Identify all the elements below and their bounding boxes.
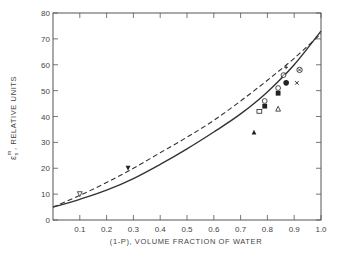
chart: 01020304050607080 0.10.20.30.40.50.60.70… <box>0 0 341 255</box>
x-tick-label: 0.6 <box>208 225 220 234</box>
x-tick-label: 0.4 <box>155 225 167 234</box>
x-tick-label: 0.9 <box>289 225 301 234</box>
marker-open-triangle <box>276 106 281 111</box>
x-axis-title: (1-P), VOLUME FRACTION OF WATER <box>110 237 262 246</box>
y-tick-label: 30 <box>41 138 50 147</box>
marker-open-circle <box>276 86 281 91</box>
svg-text:εsm, RELATIVE UNITS: εsm, RELATIVE UNITS <box>6 76 19 160</box>
marker-circled-x <box>297 67 302 72</box>
y-tick-label: 50 <box>41 87 50 96</box>
x-tick-label: 0.7 <box>235 225 247 234</box>
x-axis-ticks: 0.10.20.30.40.50.60.70.80.91.0 <box>74 13 327 234</box>
y-axis-sub: s <box>13 152 19 155</box>
x-tick-label: 0.5 <box>181 225 193 234</box>
x-tick-label: 0.2 <box>101 225 113 234</box>
y-tick-label: 20 <box>41 164 50 173</box>
marker-open-circle <box>262 99 267 104</box>
data-points <box>77 66 302 197</box>
marker-filled-triangle <box>252 130 257 135</box>
x-tick-label: 1.0 <box>315 225 327 234</box>
x-tick-label: 0.1 <box>74 225 86 234</box>
y-tick-label: 80 <box>41 9 50 18</box>
y-axis-rest: , RELATIVE UNITS <box>9 76 18 150</box>
y-axis-ticks: 01020304050607080 <box>41 9 321 225</box>
x-tick-label: 0.3 <box>128 225 140 234</box>
marker-slashed-circle <box>281 73 286 78</box>
x-tick-label: 0.8 <box>262 225 274 234</box>
y-tick-label: 40 <box>41 113 50 122</box>
dashed-curve <box>53 34 321 207</box>
marker-filled-circle <box>283 80 289 86</box>
y-tick-label: 10 <box>41 190 50 199</box>
marker-x <box>295 81 299 85</box>
solid-curve <box>53 31 321 207</box>
marker-open-square <box>257 109 262 113</box>
y-axis-title: εsm, RELATIVE UNITS <box>6 76 19 160</box>
y-tick-label: 60 <box>41 61 50 70</box>
marker-filled-square <box>262 104 267 109</box>
y-tick-label: 0 <box>46 216 51 225</box>
marker-filled-triangle-down <box>126 166 131 171</box>
curves <box>53 31 321 207</box>
y-tick-label: 70 <box>41 35 50 44</box>
marker-filled-square <box>276 91 281 96</box>
